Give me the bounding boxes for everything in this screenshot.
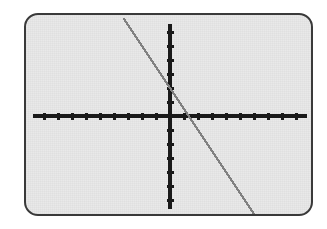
calculator-screen [24,13,313,216]
graph-plot [26,15,311,214]
screenshot-canvas [0,0,327,229]
